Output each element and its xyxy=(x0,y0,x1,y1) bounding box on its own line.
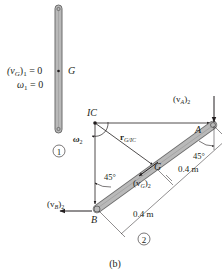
omega1-label: ω1 = 0 xyxy=(17,79,43,92)
center-of-mass-dot-1 xyxy=(57,70,60,73)
position-1-marker: 1 xyxy=(53,145,65,157)
B-label: B xyxy=(91,214,97,225)
rigid-bar-diagram: (vG)1 = 0 G ω1 = 0 1 IC A B G xyxy=(0,0,222,274)
vG1-label: (vG)1 = 0 xyxy=(7,65,42,78)
position-2-marker: 2 xyxy=(138,233,150,245)
dimension-lower-label: 0.4 m xyxy=(133,209,154,219)
dimension-upper-label: 0.4 m xyxy=(178,164,199,174)
svg-text:1: 1 xyxy=(57,147,62,157)
r-G-IC-line xyxy=(95,123,153,165)
IC-point xyxy=(93,121,97,125)
A-label: A xyxy=(194,124,202,135)
r-G-IC-label: rG/IC xyxy=(120,132,137,143)
vB2-label: (vB)2 xyxy=(47,199,64,210)
G-label-1: G xyxy=(68,65,75,76)
IC-label: IC xyxy=(86,107,97,118)
angle-arc-top xyxy=(199,141,214,146)
bar-position-1 xyxy=(55,5,62,133)
angle-arc-left xyxy=(95,183,111,187)
dimension-lines xyxy=(99,127,222,237)
figure-caption: (b) xyxy=(109,258,121,270)
G-label-2: G xyxy=(154,161,161,172)
angle-left-label: 45° xyxy=(104,172,116,182)
svg-text:2: 2 xyxy=(142,235,147,245)
vA2-label: (vA)2 xyxy=(173,94,190,105)
omega2-label: ω2 xyxy=(73,134,83,145)
angle-top-label: 45° xyxy=(193,151,205,161)
